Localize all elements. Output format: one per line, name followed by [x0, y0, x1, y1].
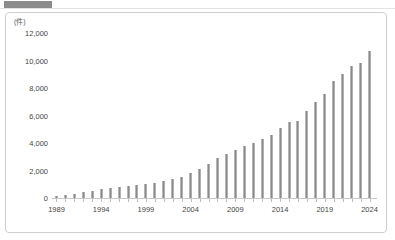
x-tick-mark [83, 199, 84, 202]
x-tick-mark [173, 199, 174, 202]
chart-screenshot: (件) 12,00010,0008,0006,0004,0002,0000 19… [0, 0, 395, 240]
x-tick-mark [370, 199, 371, 202]
bar [91, 191, 94, 198]
bar [100, 189, 103, 198]
bar [180, 177, 183, 198]
x-tick-mark [65, 199, 66, 202]
bar [225, 154, 228, 198]
x-tick-mark [182, 199, 183, 202]
bar [118, 187, 121, 198]
bar [279, 128, 282, 198]
bar [350, 66, 353, 198]
x-tick-mark [92, 199, 93, 202]
x-tick-label: 1989 [48, 205, 65, 214]
x-tick-label: 2004 [182, 205, 199, 214]
bar [109, 188, 112, 198]
bar [243, 146, 246, 198]
bar [368, 51, 371, 198]
x-tick-label: 1999 [138, 205, 155, 214]
y-axis-tick-labels: 12,00010,0008,0006,0004,0002,0000 [0, 0, 48, 240]
y-tick-label: 6,000 [29, 111, 48, 120]
x-tick-mark [262, 199, 263, 202]
x-tick-mark [164, 199, 165, 202]
x-tick-mark [217, 199, 218, 202]
x-tick-label: 2009 [227, 205, 244, 214]
y-tick-label: 12,000 [25, 29, 48, 38]
bar [153, 183, 156, 198]
bar [305, 111, 308, 198]
x-tick-mark [289, 199, 290, 202]
bar [270, 135, 273, 198]
x-axis-tick-labels: 19891994199920042009201420192024 [52, 205, 377, 219]
plot-area [52, 33, 374, 198]
x-tick-mark [137, 199, 138, 202]
x-tick-mark [209, 199, 210, 202]
x-tick-label: 2024 [361, 205, 378, 214]
bar [144, 184, 147, 198]
x-tick-mark [271, 199, 272, 202]
bar [296, 121, 299, 198]
bar [332, 81, 335, 198]
bar [162, 181, 165, 198]
bar [359, 63, 362, 198]
x-tick-mark [307, 199, 308, 202]
x-tick-mark [101, 199, 102, 202]
x-tick-mark [361, 199, 362, 202]
y-tick-label: 10,000 [25, 56, 48, 65]
x-tick-mark [56, 199, 57, 202]
y-tick-label: 4,000 [29, 139, 48, 148]
x-tick-mark [200, 199, 201, 202]
y-tick-label: 2,000 [29, 166, 48, 175]
bar [198, 169, 201, 198]
x-tick-mark [155, 199, 156, 202]
x-tick-mark [316, 199, 317, 202]
x-tick-mark [352, 199, 353, 202]
x-tick-label: 2014 [272, 205, 289, 214]
bar [261, 139, 264, 198]
bar [288, 122, 291, 198]
y-tick-label: 8,000 [29, 84, 48, 93]
y-tick-label: 0 [44, 194, 48, 203]
bar [207, 164, 210, 198]
x-tick-mark [74, 199, 75, 202]
bar [323, 94, 326, 199]
x-tick-mark [235, 199, 236, 202]
bar [341, 74, 344, 198]
x-tick-mark [119, 199, 120, 202]
x-tick-mark [253, 199, 254, 202]
x-tick-mark [244, 199, 245, 202]
x-tick-mark [334, 199, 335, 202]
x-tick-mark [325, 199, 326, 202]
bar [216, 158, 219, 198]
bar [135, 185, 138, 198]
x-tick-mark [110, 199, 111, 202]
x-tick-mark [280, 199, 281, 202]
x-tick-mark [226, 199, 227, 202]
x-axis-ticks [52, 199, 377, 203]
bar [189, 173, 192, 198]
x-tick-mark [128, 199, 129, 202]
x-tick-mark [191, 199, 192, 202]
bar [252, 143, 255, 198]
bar [314, 102, 317, 198]
x-tick-mark [298, 199, 299, 202]
x-tick-label: 2019 [316, 205, 333, 214]
bar [127, 186, 130, 198]
bar [171, 179, 174, 198]
top-divider [0, 8, 395, 9]
x-tick-mark [146, 199, 147, 202]
x-tick-mark [343, 199, 344, 202]
bar [234, 150, 237, 198]
x-tick-label: 1994 [93, 205, 110, 214]
